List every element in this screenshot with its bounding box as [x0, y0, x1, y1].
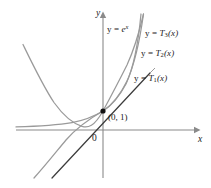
label-t2-curve: y = T2(x) — [141, 49, 174, 59]
label-t3-argument: (x) — [168, 28, 178, 38]
plot-canvas — [0, 0, 211, 188]
y-axis-label: y — [96, 9, 100, 19]
label-exponential-curve: y = ex — [107, 24, 129, 34]
y-axis-arrowhead — [100, 12, 106, 19]
label-t1-curve: y = T1(x) — [134, 74, 167, 84]
label-t1-prefix: y = — [134, 73, 148, 83]
label-t1-argument: (x) — [157, 73, 167, 83]
curve-t1-tangent-line — [52, 73, 150, 178]
label-t3-prefix: y = — [145, 28, 159, 38]
tangent-point-label: (0, 1) — [108, 113, 128, 122]
origin-label: 0 — [92, 134, 97, 144]
label-exponential-prefix: y = — [107, 24, 121, 34]
label-t3-curve: y = T3(x) — [145, 29, 178, 39]
x-axis-label: x — [198, 135, 202, 145]
taylor-polynomial-figure: y x 0 y = ex y = T3(x) y = T2(x) y = T1(… — [0, 0, 211, 188]
label-t2-prefix: y = — [141, 48, 155, 58]
label-t2-argument: (x) — [164, 48, 174, 58]
label-exponential-power: x — [126, 23, 129, 30]
x-axis-arrowhead — [194, 127, 201, 133]
tangent-point-marker — [100, 108, 105, 113]
